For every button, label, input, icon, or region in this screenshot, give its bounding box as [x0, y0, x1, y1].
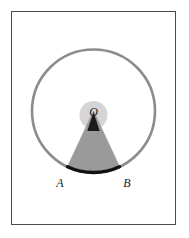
- point-label-b: B: [123, 176, 131, 190]
- geometry-diagram-canvas: O A B: [0, 0, 189, 238]
- point-label-a: A: [55, 176, 64, 190]
- point-label-o: O: [89, 105, 98, 119]
- figure-root: O A B: [0, 0, 189, 238]
